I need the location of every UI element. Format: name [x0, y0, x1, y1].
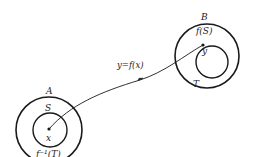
mapping-diagram: A S x f⁻¹(T) B f(S) y T y=f(x) — [0, 0, 255, 157]
label-b: B — [200, 12, 208, 22]
label-preimage: f⁻¹(T) — [35, 149, 61, 157]
label-fs: f(S) — [195, 26, 213, 36]
mapping-curve — [49, 45, 203, 129]
label-x: x — [46, 133, 51, 143]
set-fs-inner-circle — [196, 46, 228, 78]
label-mapping: y=f(x) — [116, 60, 144, 70]
label-a: A — [45, 86, 53, 96]
label-t: T — [193, 79, 200, 89]
label-s: S — [45, 103, 51, 113]
label-y: y — [201, 46, 208, 56]
